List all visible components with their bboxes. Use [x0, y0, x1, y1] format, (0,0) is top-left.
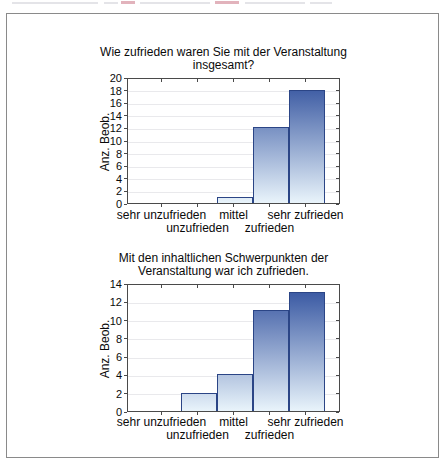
y-tick-mark-left [124, 320, 127, 321]
x-tick-mark-top [269, 79, 270, 82]
artifact-segment [121, 1, 135, 4]
x-category-label: zufrieden [245, 429, 294, 441]
x-category-label: mittel [219, 209, 248, 221]
x-tick-mark-top [305, 285, 306, 288]
y-tick-mark-left [124, 78, 127, 79]
y-tick-label: 4 [98, 173, 122, 184]
x-category-label: mittel [219, 416, 248, 428]
artifact-segment [245, 2, 305, 4]
y-tick-mark-left [124, 128, 127, 129]
y-tick-label: 2 [98, 186, 122, 197]
bar-sehr-zufrieden [289, 90, 325, 203]
y-tick-mark-right [336, 191, 339, 192]
y-tick-label: 16 [98, 98, 122, 109]
y-tick-mark-left [124, 141, 127, 142]
cropped-text-artifact [0, 0, 447, 6]
y-tick-label: 8 [98, 333, 122, 344]
y-tick-mark-right [336, 128, 339, 129]
chart1-title-line2: insgesamt? [7, 59, 440, 72]
y-tick-mark-right [336, 412, 339, 413]
x-category-label: unzufrieden [166, 222, 229, 234]
chart2-title: Mit den inhaltlichen Schwerpunkten der V… [7, 252, 440, 278]
y-tick-mark-right [336, 393, 339, 394]
y-tick-mark-left [124, 393, 127, 394]
y-tick-mark-left [124, 166, 127, 167]
y-tick-label: 12 [98, 123, 122, 134]
y-tick-mark-left [124, 302, 127, 303]
y-tick-mark-left [124, 191, 127, 192]
y-tick-mark-left [124, 204, 127, 205]
x-category-label: sehr unzufrieden [117, 209, 206, 221]
y-tick-label: 6 [98, 161, 122, 172]
x-tick-mark-bottom [269, 204, 270, 207]
x-tick-mark-top [197, 79, 198, 82]
y-tick-mark-right [336, 141, 339, 142]
x-tick-mark-top [233, 285, 234, 288]
y-tick-mark-right [336, 166, 339, 167]
bar-zufrieden [253, 127, 289, 203]
y-tick-mark-left [124, 153, 127, 154]
y-tick-mark-left [124, 284, 127, 285]
x-tick-mark-bottom [233, 204, 234, 207]
y-tick-label: 6 [98, 352, 122, 363]
y-tick-mark-right [336, 90, 339, 91]
y-tick-mark-right [336, 178, 339, 179]
y-tick-mark-right [336, 284, 339, 285]
x-category-label: sehr zufrieden [267, 416, 343, 428]
chart1-title: Wie zufrieden waren Sie mit der Veransta… [7, 46, 440, 72]
y-tick-mark-right [336, 78, 339, 79]
y-tick-mark-right [336, 103, 339, 104]
artifact-segment [215, 1, 239, 4]
chart2-title-line2: Veranstaltung war ich zufrieden. [7, 265, 440, 278]
y-tick-mark-right [336, 338, 339, 339]
y-tick-mark-left [124, 103, 127, 104]
artifact-segment [12, 2, 98, 4]
x-tick-mark-top [197, 285, 198, 288]
bar-mittel [217, 197, 253, 203]
x-tick-mark-top [161, 285, 162, 288]
x-category-label: zufrieden [245, 222, 294, 234]
y-tick-label: 4 [98, 370, 122, 381]
chart1-plot-area [127, 78, 340, 204]
chart2-plot-area [127, 284, 340, 412]
y-tick-mark-right [336, 357, 339, 358]
y-tick-mark-left [124, 412, 127, 413]
y-tick-label: 2 [98, 388, 122, 399]
y-tick-mark-right [336, 302, 339, 303]
y-tick-mark-left [124, 178, 127, 179]
x-category-label: unzufrieden [166, 429, 229, 441]
x-tick-mark-bottom [197, 412, 198, 415]
y-tick-label: 14 [98, 279, 122, 290]
x-tick-mark-bottom [305, 204, 306, 207]
bar-zufrieden [253, 310, 289, 411]
y-tick-label: 10 [98, 136, 122, 147]
y-tick-mark-left [124, 115, 127, 116]
y-tick-label: 14 [98, 110, 122, 121]
y-tick-mark-right [336, 153, 339, 154]
y-tick-mark-left [124, 375, 127, 376]
y-tick-mark-left [124, 338, 127, 339]
x-tick-mark-top [161, 79, 162, 82]
x-tick-mark-top [233, 79, 234, 82]
x-category-label: sehr unzufrieden [117, 416, 206, 428]
artifact-segment [310, 2, 332, 4]
y-tick-mark-right [336, 320, 339, 321]
report-panel: Wie zufrieden waren Sie mit der Veransta… [6, 13, 439, 458]
y-tick-mark-left [124, 357, 127, 358]
y-tick-label: 12 [98, 297, 122, 308]
y-tick-mark-left [124, 90, 127, 91]
y-tick-mark-right [336, 204, 339, 205]
x-tick-mark-top [305, 79, 306, 82]
bar-unzufrieden [181, 393, 217, 411]
artifact-segment [140, 2, 210, 4]
bar-sehr-zufrieden [289, 292, 325, 411]
y-tick-mark-right [336, 115, 339, 116]
artifact-segment [104, 2, 118, 4]
y-tick-label: 8 [98, 148, 122, 159]
y-tick-label: 20 [98, 73, 122, 84]
x-tick-mark-top [269, 285, 270, 288]
bar-mittel [217, 374, 253, 411]
y-tick-mark-right [336, 375, 339, 376]
x-category-label: sehr zufrieden [267, 209, 343, 221]
x-tick-mark-bottom [161, 204, 162, 207]
